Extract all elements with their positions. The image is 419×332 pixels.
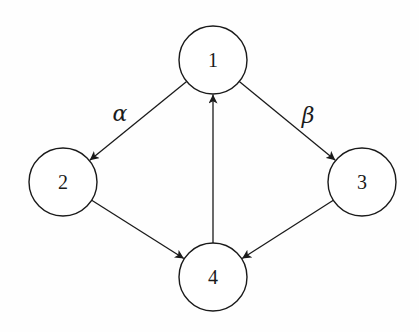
- graph-svg: 1 2 3 4 α β: [0, 0, 419, 332]
- edge-1-to-3: [239, 82, 335, 161]
- edge-label-beta: β: [301, 103, 315, 128]
- node-4: 4: [179, 243, 247, 311]
- node-4-label: 4: [208, 266, 218, 288]
- node-2-label: 2: [58, 171, 68, 193]
- edge-label-alpha: α: [113, 101, 128, 126]
- node-2: 2: [29, 148, 97, 216]
- node-3: 3: [328, 148, 396, 216]
- edge-2-to-4: [92, 200, 184, 258]
- node-1-label: 1: [208, 49, 218, 71]
- edge-3-to-4: [242, 200, 333, 258]
- edge-1-to-2: [90, 81, 187, 160]
- graph-diagram: 1 2 3 4 α β: [0, 0, 419, 332]
- node-1: 1: [179, 26, 247, 94]
- node-3-label: 3: [357, 171, 367, 193]
